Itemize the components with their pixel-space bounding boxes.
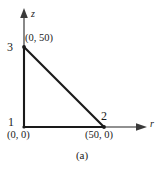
- node-label-1: 1: [8, 116, 14, 128]
- node-label-2: 2: [101, 110, 107, 122]
- figure-canvas: [0, 0, 164, 173]
- triangle-edge-3-2: [24, 47, 104, 127]
- coordinate-label-node-3: (0, 50): [25, 33, 53, 44]
- coordinate-label-node-1: (0, 0): [7, 130, 30, 141]
- coordinate-label-node-2: (50, 0): [85, 130, 113, 141]
- figure-caption: (a): [0, 150, 164, 161]
- node-label-3: 3: [7, 41, 13, 53]
- arrow-right-icon: [136, 123, 147, 131]
- figure-container: z r 3 1 2 (0, 50) (0, 0) (50, 0) (a): [0, 0, 164, 173]
- r-axis-label: r: [150, 119, 154, 129]
- arrow-up-icon: [20, 8, 28, 18]
- z-axis-label: z: [31, 9, 35, 19]
- vertex-marker-3: [22, 45, 26, 49]
